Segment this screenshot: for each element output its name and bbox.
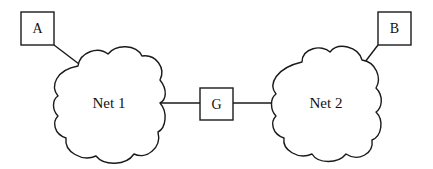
network-label-net1: Net 1 bbox=[93, 95, 126, 111]
host-b-node: B bbox=[378, 12, 411, 45]
host-a-label: A bbox=[32, 21, 43, 36]
host-a-node: A bbox=[21, 12, 54, 45]
network-label-net2: Net 2 bbox=[310, 95, 343, 111]
network-cloud-net1: Net 1 bbox=[54, 47, 166, 164]
gateway-g-node: G bbox=[200, 88, 233, 120]
network-diagram: Net 1 Net 2 A G B bbox=[0, 0, 433, 169]
gateway-g-label: G bbox=[211, 97, 221, 112]
network-cloud-net2: Net 2 bbox=[272, 46, 382, 161]
edge-b-net2 bbox=[365, 45, 378, 62]
host-b-label: B bbox=[390, 21, 399, 36]
edge-a-net1 bbox=[54, 45, 79, 64]
